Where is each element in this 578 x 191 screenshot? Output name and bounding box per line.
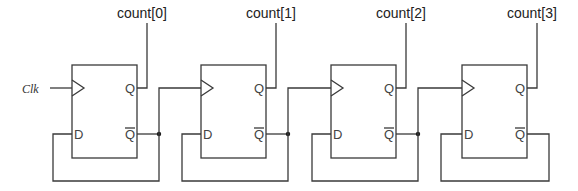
ripple-clock-wire xyxy=(159,88,201,134)
count-label-3: count[3] xyxy=(507,5,557,21)
flip-flop-2 xyxy=(331,65,396,158)
pin-qbar: Q xyxy=(515,127,525,142)
pin-q: Q xyxy=(125,81,135,96)
flip-flop-3 xyxy=(462,65,527,158)
ripple-clock-wire xyxy=(418,88,462,134)
count-label-2: count[2] xyxy=(376,5,426,21)
pin-d: D xyxy=(333,127,342,142)
pin-d: D xyxy=(74,127,83,142)
clock-label: Clk xyxy=(22,82,39,96)
flip-flop-1 xyxy=(201,65,266,158)
q-output-wire xyxy=(266,23,276,88)
q-output-wire xyxy=(527,23,537,88)
pin-qbar: Q xyxy=(254,127,264,142)
pin-qbar: Q xyxy=(384,127,394,142)
ripple-clock-wire xyxy=(288,88,331,134)
pin-q: Q xyxy=(515,81,525,96)
q-output-wire xyxy=(137,23,147,88)
count-label-0: count[0] xyxy=(117,5,167,21)
pin-qbar: Q xyxy=(125,127,135,142)
pin-q: Q xyxy=(384,81,394,96)
flip-flop-0 xyxy=(72,65,137,158)
count-label-1: count[1] xyxy=(246,5,296,21)
pin-q: Q xyxy=(254,81,264,96)
q-output-wire xyxy=(396,23,406,88)
pin-d: D xyxy=(464,127,473,142)
pin-d: D xyxy=(203,127,212,142)
ripple-counter-diagram: Clk DQQcount[0]DQQcount[1]DQQcount[2]DQQ… xyxy=(0,0,578,191)
